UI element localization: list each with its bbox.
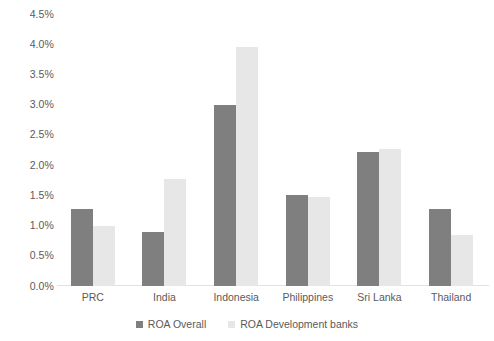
y-axis-tick-label: 1.0%	[14, 220, 54, 231]
y-axis-tick-label: 0.0%	[14, 281, 54, 292]
bar-pair	[344, 14, 416, 286]
x-axis-category-label: India	[129, 291, 201, 303]
bar-group	[200, 14, 272, 286]
y-axis-tick-label: 3.0%	[14, 99, 54, 110]
y-axis-tick-label: 2.5%	[14, 129, 54, 140]
bar-pair	[129, 14, 201, 286]
bar[interactable]	[357, 152, 379, 286]
x-axis-category-label: Sri Lanka	[344, 291, 416, 303]
bar[interactable]	[308, 197, 330, 286]
bar[interactable]	[93, 226, 115, 286]
bar[interactable]	[429, 209, 451, 286]
legend-label: ROA Overall	[148, 318, 206, 330]
bar[interactable]	[379, 149, 401, 286]
x-axis-category-label: Thailand	[415, 291, 487, 303]
bar-group	[129, 14, 201, 286]
bar-group	[57, 14, 129, 286]
bar[interactable]	[71, 209, 93, 286]
y-axis-tick-label: 0.5%	[14, 250, 54, 261]
x-axis-category-label: Indonesia	[200, 291, 272, 303]
legend-swatch-icon	[228, 321, 235, 328]
bar[interactable]	[236, 47, 258, 286]
plot-area	[57, 14, 487, 286]
bar[interactable]	[286, 195, 308, 286]
bar-pair	[272, 14, 344, 286]
chart-legend: ROA OverallROA Development banks	[0, 318, 494, 330]
y-axis-tick-label: 4.5%	[14, 9, 54, 20]
bar-group	[415, 14, 487, 286]
bar[interactable]	[214, 105, 236, 286]
legend-swatch-icon	[136, 321, 143, 328]
legend-item[interactable]: ROA Development banks	[228, 318, 358, 330]
y-axis-tick-label: 4.0%	[14, 39, 54, 50]
x-axis-category-label: PRC	[57, 291, 129, 303]
y-axis-tick-label: 1.5%	[14, 190, 54, 201]
bar[interactable]	[451, 235, 473, 286]
y-axis-tick-label: 2.0%	[14, 160, 54, 171]
legend-label: ROA Development banks	[240, 318, 358, 330]
bar-group	[272, 14, 344, 286]
bar-pair	[57, 14, 129, 286]
bar-chart: 0.0%0.5%1.0%1.5%2.0%2.5%3.0%3.5%4.0%4.5%…	[0, 0, 494, 341]
bar-pair	[200, 14, 272, 286]
y-axis: 0.0%0.5%1.0%1.5%2.0%2.5%3.0%3.5%4.0%4.5%	[8, 14, 54, 286]
bar[interactable]	[164, 179, 186, 286]
bar-group	[344, 14, 416, 286]
legend-item[interactable]: ROA Overall	[136, 318, 206, 330]
bar[interactable]	[142, 232, 164, 286]
y-axis-tick-label: 3.5%	[14, 69, 54, 80]
x-axis-category-label: Philippines	[272, 291, 344, 303]
bar-pair	[415, 14, 487, 286]
